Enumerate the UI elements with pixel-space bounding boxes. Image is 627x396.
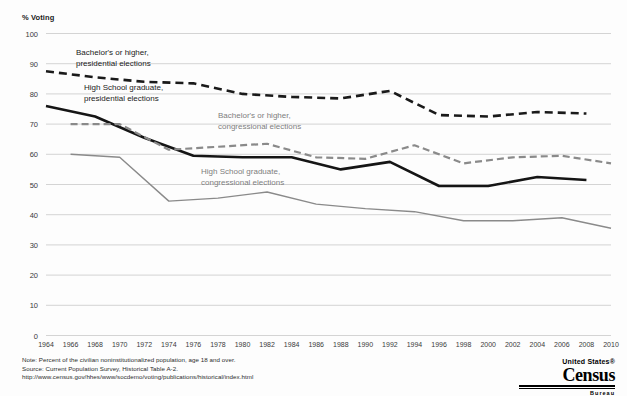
x-tick-label: 1978: [210, 341, 226, 348]
annotation-line-1: Bachelor's or higher,: [76, 48, 151, 59]
y-tick-label: 100: [12, 29, 38, 38]
x-tick-label: 1972: [136, 341, 152, 348]
annotation-line-1: High School graduate,: [84, 83, 163, 94]
series-annotation-highschool-presidential: High School graduate, presidential elect…: [84, 83, 163, 104]
x-tick-label: 1990: [358, 341, 374, 348]
y-tick-label: 20: [12, 271, 38, 280]
footnote-url[interactable]: http://www.census.gov/hhes/www/socdemo/v…: [22, 373, 253, 382]
logo-rule-thick: [519, 385, 615, 387]
chart-figure: % Voting 0102030405060708090100 19641966…: [0, 0, 627, 396]
x-tick-label: 2002: [505, 341, 521, 348]
x-tick-label: 2010: [603, 341, 619, 348]
series-annotation-bachelor-congressional: Bachelor's or higher, congressional elec…: [218, 111, 301, 132]
logo-bureau: Bureau: [519, 390, 615, 396]
x-tick-label: 2008: [579, 341, 595, 348]
y-tick-label: 70: [12, 120, 38, 129]
x-tick-label: 1984: [284, 341, 300, 348]
series-line-3: [71, 154, 611, 228]
y-tick-label: 30: [12, 240, 38, 249]
x-tick-label: 1992: [382, 341, 398, 348]
series-annotation-highschool-congressional: High School graduate, congressional elec…: [201, 167, 284, 188]
x-tick-label: 1970: [112, 341, 128, 348]
x-tick-label: 2006: [554, 341, 570, 348]
x-tick-label: 1996: [431, 341, 447, 348]
x-tick-label: 1964: [38, 341, 54, 348]
x-tick-label: 1998: [456, 341, 472, 348]
x-tick-label: 1980: [235, 341, 251, 348]
y-tick-label: 40: [12, 210, 38, 219]
annotation-line-1: High School graduate,: [201, 167, 284, 178]
x-tick-label: 2000: [480, 341, 496, 348]
footnote-source: Source: Current Population Survey, Histo…: [22, 365, 253, 374]
logo-rule-thin: [519, 388, 615, 389]
x-tick-label: 1976: [186, 341, 202, 348]
series-line-1: [46, 106, 586, 186]
footnote-note: Note: Percent of the civilian noninstitu…: [22, 356, 253, 365]
x-tick-label: 1994: [407, 341, 423, 348]
series-annotation-bachelor-presidential: Bachelor's or higher, presidential elect…: [76, 48, 151, 69]
annotation-line-2: presidential elections: [76, 59, 151, 70]
series-line-2: [71, 124, 611, 163]
footnotes: Note: Percent of the civilian noninstitu…: [22, 356, 253, 382]
y-tick-label: 90: [12, 59, 38, 68]
y-tick-label: 50: [12, 180, 38, 189]
x-tick-label: 2004: [530, 341, 546, 348]
y-tick-label: 80: [12, 89, 38, 98]
x-tick-label: 1968: [87, 341, 103, 348]
logo-census-wordmark: Census: [519, 366, 615, 384]
census-bureau-logo: United States® Census Bureau: [519, 358, 615, 390]
x-tick-label: 1974: [161, 341, 177, 348]
y-tick-label: 10: [12, 301, 38, 310]
x-tick-label: 1982: [259, 341, 275, 348]
annotation-line-2: presidential elections: [84, 94, 163, 105]
x-tick-label: 1966: [63, 341, 79, 348]
annotation-line-1: Bachelor's or higher,: [218, 111, 301, 122]
x-tick-label: 1986: [308, 341, 324, 348]
annotation-line-2: congressional elections: [201, 178, 284, 189]
x-tick-label: 1988: [333, 341, 349, 348]
y-tick-label: 0: [12, 331, 38, 340]
annotation-line-2: congressional elections: [218, 122, 301, 133]
y-tick-label: 60: [12, 150, 38, 159]
